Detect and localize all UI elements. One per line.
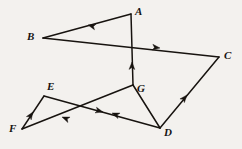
- geometry-figure: ABCDEFG: [0, 0, 242, 149]
- vertex-label-f: F: [9, 123, 16, 134]
- vertex-label-g: G: [137, 83, 145, 94]
- segment-a-b: [43, 14, 131, 38]
- arrow-gf2-icon: [61, 114, 70, 122]
- vertex-label-e: E: [47, 81, 54, 92]
- arrowheads-group: [26, 22, 189, 122]
- vertex-label-b: B: [27, 31, 34, 42]
- segment-d-c: [160, 57, 219, 128]
- segment-g-f: [22, 85, 133, 129]
- segment-g-a: [131, 14, 133, 85]
- vertex-label-d: D: [164, 127, 172, 138]
- vertex-label-a: A: [135, 6, 142, 17]
- segment-b-c: [43, 38, 219, 57]
- segments-group: [22, 14, 219, 129]
- vertex-label-c: C: [224, 50, 231, 61]
- figure-canvas: [0, 0, 242, 149]
